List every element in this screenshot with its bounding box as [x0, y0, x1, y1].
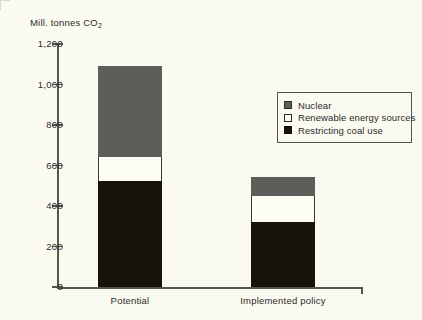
bar-potential[interactable]	[98, 66, 162, 287]
x-axis-label-potential: Potential	[88, 295, 172, 306]
legend-swatch-renewable-icon	[284, 114, 292, 122]
bar-segment-nuclear[interactable]	[251, 177, 315, 196]
x-axis-line	[57, 287, 363, 289]
x-tick-mark-end	[361, 287, 363, 294]
y-tick-label: 600	[21, 160, 63, 171]
legend-swatch-nuclear-icon	[284, 101, 292, 109]
bar-implemented-policy[interactable]	[251, 177, 315, 287]
legend-label: Renewable energy sources	[298, 112, 416, 123]
y-tick-label: 800	[21, 119, 63, 130]
legend-item-coal[interactable]: Restricting coal use	[284, 125, 405, 136]
y-axis-title: Mill. tonnes CO2	[30, 17, 102, 28]
bar-segment-coal[interactable]	[251, 222, 315, 287]
legend-label: Nuclear	[298, 100, 331, 111]
co2-stacked-bar-chart: Mill. tonnes CO2 1,200 1,000 800 600 400…	[0, 0, 422, 320]
legend: Nuclear Renewable energy sources Restric…	[277, 92, 412, 143]
legend-item-nuclear[interactable]: Nuclear	[284, 100, 405, 111]
y-axis-title-text: Mill. tonnes CO	[30, 17, 98, 28]
bar-segment-renewable[interactable]	[251, 196, 315, 222]
legend-item-renewable[interactable]: Renewable energy sources	[284, 112, 405, 123]
y-tick-label: 1,200	[21, 38, 63, 49]
bar-segment-renewable[interactable]	[98, 157, 162, 181]
y-tick-label: 200	[21, 241, 63, 252]
frame-corner-top-left	[0, 0, 1, 10]
bar-segment-coal[interactable]	[98, 181, 162, 287]
frame-corner-top-left-h	[0, 0, 10, 1]
y-tick-label: 1,000	[21, 79, 63, 90]
y-axis-title-subscript: 2	[98, 22, 102, 29]
y-tick-label: 0	[21, 281, 63, 292]
legend-swatch-coal-icon	[284, 126, 292, 134]
legend-label: Restricting coal use	[298, 125, 383, 136]
y-tick-label: 400	[21, 200, 63, 211]
bar-segment-nuclear[interactable]	[98, 66, 162, 157]
x-axis-label-implemented-policy: Implemented policy	[231, 295, 335, 306]
